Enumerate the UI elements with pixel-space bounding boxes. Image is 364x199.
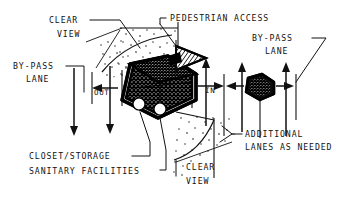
label-bypass-lane-right-line1: BY-PASS [252,33,293,43]
label-out: OUT [94,88,109,97]
label-closet-storage: CLOSET/STORAGE [29,151,111,161]
sight-arc-lower [174,120,232,162]
label-clear-view-bottom-line2: VIEW [186,176,209,186]
drive-through-kiosk-diagram: CLEAR VIEW BY-PASS LANE PEDESTRIAN ACCES… [0,0,364,199]
secondary-kiosk-building [226,74,294,100]
label-sanitary-facilities: SANITARY FACILITIES [29,166,140,176]
label-additional-lanes-line2: LANES AS NEEDED [245,142,332,152]
label-clear-view-top-line2: VIEW [57,29,80,39]
service-window-left [133,98,145,110]
diagram-canvas: CLEAR VIEW BY-PASS LANE PEDESTRIAN ACCES… [0,0,364,199]
inbound-lane-arrows [192,58,296,138]
clear-view-zone-left [100,40,126,77]
label-clear-view-top-line1: CLEAR [49,15,78,25]
service-window-right [154,103,166,115]
label-additional-lanes-line1: ADDITIONAL [245,129,303,139]
label-pedestrian-access: PEDESTRIAN ACCESS [170,13,269,23]
label-bypass-lane-right-line2: LANE [265,46,288,56]
label-clear-view-bottom-line1: CLEAR [186,162,215,172]
label-in: IN [205,86,215,95]
label-bypass-lane-left-line2: LANE [26,74,49,84]
label-bypass-lane-left-line1: BY-PASS [13,61,54,71]
